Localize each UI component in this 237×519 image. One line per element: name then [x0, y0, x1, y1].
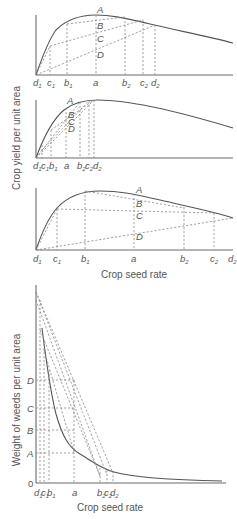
svg-text:a: a — [64, 160, 69, 171]
graph-1-crop-yield: A B C D d1 c1 b1 a b2 c2 d2 — [33, 4, 233, 89]
svg-text:a: a — [72, 487, 77, 498]
x-tick-labels: d1 c1 b1 a b2 c2 d2 — [33, 253, 237, 265]
graph-3-crop-yield: A B C D d1 c1 b1 a b2 c2 d2 Crop seed ra… — [33, 184, 237, 280]
svg-text:d2: d2 — [110, 487, 119, 499]
svg-text:C: C — [27, 403, 34, 414]
crop-weed-diagram: A B C D d1 c1 b1 a b2 c2 d2 A B C D — [0, 0, 237, 519]
y-tick-labels: D C B A 0 — [26, 375, 34, 489]
svg-text:0: 0 — [28, 478, 33, 489]
yield-curve — [36, 15, 233, 75]
svg-text:b1: b1 — [64, 77, 73, 89]
yield-curve — [36, 191, 233, 250]
point-label-D: D — [97, 49, 104, 60]
svg-text:a: a — [93, 77, 98, 88]
x-tick-labels: d1 c1 b1 a b2 c2 d2 — [34, 487, 119, 499]
y-axis-title-crop-yield: Crop yield per unit area — [11, 86, 22, 190]
svg-text:d2: d2 — [228, 253, 237, 265]
graph-4-weed-weight: D C B A 0 d1 c1 b1 a b2 c2 d2 Crop seed … — [11, 285, 226, 513]
svg-text:c1: c1 — [41, 160, 49, 172]
svg-text:c2: c2 — [210, 253, 219, 265]
svg-text:b2: b2 — [122, 77, 131, 89]
x-tick-labels: d1 c1 b1 a b2 c2 d2 — [33, 160, 102, 172]
point-label-D: D — [68, 123, 75, 134]
point-label-B: B — [97, 20, 104, 31]
svg-text:c1: c1 — [53, 253, 61, 265]
svg-text:b1: b1 — [81, 253, 90, 265]
svg-text:a: a — [131, 253, 136, 264]
weed-curve — [42, 328, 222, 481]
point-label-A: A — [66, 95, 73, 106]
point-label-C: C — [97, 33, 104, 44]
svg-text:b2: b2 — [180, 253, 189, 265]
point-label-B: B — [136, 198, 143, 209]
svg-text:b1: b1 — [49, 160, 58, 172]
point-label-D: D — [136, 231, 143, 242]
point-label-A: A — [96, 4, 103, 15]
svg-text:d1: d1 — [33, 253, 42, 265]
svg-text:A: A — [26, 448, 33, 459]
svg-text:c2: c2 — [140, 77, 149, 89]
svg-text:c1: c1 — [47, 77, 55, 89]
y-axis-title-weed-weight: Weight of weeds per unit area — [11, 333, 22, 466]
x-axis-title: Crop seed rate — [77, 502, 144, 513]
svg-text:D: D — [27, 375, 34, 386]
svg-text:B: B — [27, 425, 34, 436]
x-axis-title: Crop seed rate — [101, 269, 168, 280]
svg-text:d1: d1 — [33, 77, 42, 89]
point-label-C: C — [136, 210, 143, 221]
svg-text:d2: d2 — [151, 77, 160, 89]
point-label-A: A — [135, 184, 142, 195]
graph-2-crop-yield: A B C D d1 c1 b1 a b2 c2 d2 — [33, 95, 233, 172]
x-tick-labels: d1 c1 b1 a b2 c2 d2 — [33, 77, 160, 89]
svg-text:d2: d2 — [93, 160, 102, 172]
svg-text:b1: b1 — [47, 487, 56, 499]
